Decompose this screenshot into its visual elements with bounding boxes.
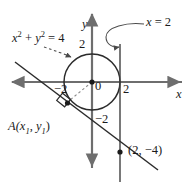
point-2-neg4 [117,149,122,154]
tangent-point-label: A(x1, y1) [8,120,50,135]
y-tick-label-neg2: −2 [95,113,108,126]
pt-A-letter: A( [8,119,20,133]
circle-equation-label: x2 + y2 = 4 [12,30,65,45]
equation-callout-arrow [44,47,71,57]
x-equals-2-callout-arrow [106,24,144,48]
eq-equals-4: = 4 [45,31,65,45]
line-eq-equals-2: = 2 [152,15,172,29]
vertical-line-equation-label: x = 2 [146,16,171,29]
tangent-point-A [65,100,70,105]
pt-close-paren: ) [46,119,50,133]
x-axis-label: x [176,88,182,101]
coordinate-label-2-neg4: (2, −4) [128,144,162,157]
x-tick-label-2: 2 [123,83,129,96]
radius-segment-dashed [70,82,92,100]
y-axis-label: y [82,18,88,31]
x-tick-label-neg2: −2 [54,83,67,96]
origin-point [89,79,94,84]
y-tick-label-2: 2 [79,38,85,51]
eq-plus: + [22,31,35,45]
math-diagram-circle-tangent: x2 + y2 = 4 x = 2 y x 2 −2 −2 2 0 A(x1, … [0,0,194,188]
origin-label: 0 [95,80,101,93]
